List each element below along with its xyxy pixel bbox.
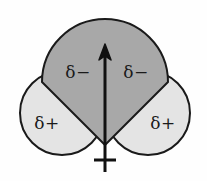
delta-minus-label-right: δ− [123,62,148,82]
dipole-diagram-figure: δ− δ− δ+ δ+ [0,0,207,181]
delta-plus-label-left: δ+ [34,113,59,133]
delta-minus-label-left: δ− [65,62,90,82]
dipole-diagram-svg: δ− δ− δ+ δ+ [0,0,207,181]
delta-plus-label-right: δ+ [150,113,175,133]
